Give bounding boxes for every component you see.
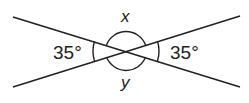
angle-arc-right bbox=[158, 41, 160, 61]
angle-arc-left bbox=[93, 41, 95, 61]
angle-arc-x bbox=[107, 32, 146, 45]
angle-arc-y bbox=[107, 57, 146, 70]
right-angle-label: 35° bbox=[170, 42, 199, 63]
angle-x-label: x bbox=[120, 7, 130, 26]
left-angle-label: 35° bbox=[53, 42, 82, 63]
intersecting-lines-diagram: 35° 35° x y bbox=[0, 0, 249, 103]
angle-y-label: y bbox=[120, 73, 131, 92]
